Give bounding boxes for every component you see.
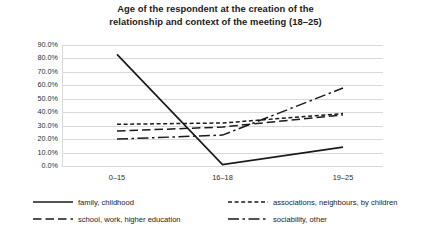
- chart-title: Age of the respondent at the creation of…: [0, 2, 431, 28]
- x-axis-label: 0–15: [109, 174, 125, 182]
- legend-swatch-icon: [228, 214, 268, 224]
- gridline-00: [62, 166, 383, 167]
- y-axis-label: 40.0%: [0, 109, 58, 116]
- chart-container: Age of the respondent at the creation of…: [0, 0, 431, 235]
- series-line: [117, 88, 343, 139]
- x-axis-label: 16–18: [212, 174, 233, 182]
- legend-swatch-icon: [33, 214, 73, 224]
- legend-item[interactable]: associations, neighbours, by children: [228, 196, 398, 208]
- legend-swatch-icon: [228, 197, 268, 207]
- x-axis-tick-labels: 0–1516–1819–25: [62, 174, 383, 186]
- y-axis-label: 50.0%: [0, 95, 58, 102]
- legend-label: school, work, higher education: [78, 215, 181, 224]
- legend-label: associations, neighbours, by children: [273, 198, 398, 207]
- y-axis-label: 30.0%: [0, 122, 58, 129]
- y-axis-tick-labels: 0.0%10.0%20.0%30.0%40.0%50.0%60.0%70.0%8…: [0, 45, 58, 166]
- series-line: [117, 54, 343, 164]
- y-axis-label: 10.0%: [0, 149, 58, 156]
- legend-item[interactable]: school, work, higher education: [33, 213, 181, 225]
- chart-title-line-2: relationship and context of the meeting …: [0, 15, 431, 28]
- y-axis-label: 20.0%: [0, 136, 58, 143]
- chart-legend: family, childhoodassociations, neighbour…: [0, 196, 431, 230]
- legend-item[interactable]: sociability, other: [228, 213, 327, 225]
- series-lines: [62, 45, 383, 166]
- legend-swatch-icon: [33, 197, 73, 207]
- legend-label: sociability, other: [273, 215, 327, 224]
- legend-label: family, childhood: [78, 198, 134, 207]
- x-axis-label: 19–25: [333, 174, 354, 182]
- y-axis-label: 80.0%: [0, 55, 58, 62]
- chart-title-line-1: Age of the respondent at the creation of…: [0, 2, 431, 15]
- legend-item[interactable]: family, childhood: [33, 196, 134, 208]
- y-axis-label: 90.0%: [0, 41, 58, 48]
- y-axis-label: 70.0%: [0, 68, 58, 75]
- y-axis-label: 0.0%: [0, 162, 58, 169]
- y-axis-label: 60.0%: [0, 82, 58, 89]
